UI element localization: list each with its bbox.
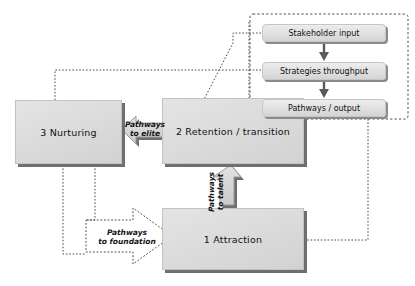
pathway-caption-foundation-line1: Pathways xyxy=(88,228,166,237)
pathway-caption-talent: Pathways to talent xyxy=(207,168,225,216)
talent-pathway-diagram: 3 Nurturing 2 Retention / transition 1 A… xyxy=(0,0,415,286)
pathway-caption-talent-line2: to talent xyxy=(216,168,225,216)
process-box-strategies-throughput[interactable]: Strategies throughput xyxy=(262,62,386,80)
stage-label-nurturing: 3 Nurturing xyxy=(40,127,97,138)
stage-label-retention: 2 Retention / transition xyxy=(176,126,290,137)
pathway-caption-foundation-line2: to foundation xyxy=(88,237,166,246)
stage-box-attraction[interactable]: 1 Attraction xyxy=(162,208,304,270)
process-label-stakeholder-input: Stakeholder input xyxy=(289,29,360,38)
stage-box-nurturing[interactable]: 3 Nurturing xyxy=(15,100,122,164)
connector-nurturing-to-foundation-lower xyxy=(63,165,86,254)
process-box-pathways-output[interactable]: Pathways / output xyxy=(262,99,386,117)
pathway-caption-elite: Pathways to elite xyxy=(124,120,166,138)
connector-nurturing-to-foundation-upper xyxy=(86,165,95,220)
pathway-caption-talent-line1: Pathways xyxy=(207,168,216,216)
pathway-caption-foundation: Pathways to foundation xyxy=(88,228,166,246)
stage-label-attraction: 1 Attraction xyxy=(204,234,262,245)
process-arrow-strategies-to-pathways xyxy=(319,81,329,98)
pathway-caption-elite-line2: to elite xyxy=(124,129,166,138)
process-label-pathways-output: Pathways / output xyxy=(288,104,360,113)
process-box-stakeholder-input[interactable]: Stakeholder input xyxy=(262,24,386,42)
process-arrow-stakeholder-to-strategies xyxy=(319,43,329,61)
pathway-caption-elite-line1: Pathways xyxy=(124,120,166,129)
process-label-strategies-throughput: Strategies throughput xyxy=(280,67,368,76)
connector-strategies-to-nurturing xyxy=(55,70,261,101)
connector-output-to-attraction xyxy=(305,119,368,240)
